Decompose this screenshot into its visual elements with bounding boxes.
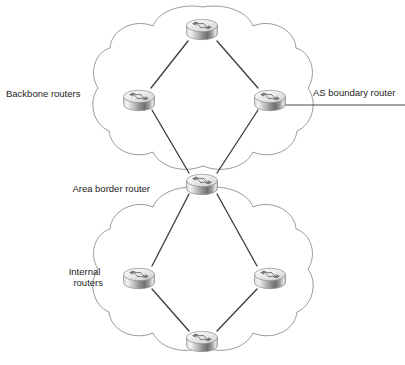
backbone-left-router[interactable] (124, 90, 155, 110)
area-border-router-label: Area border router (72, 183, 150, 194)
area-border-router[interactable] (187, 174, 218, 194)
internal-routers-label-line-2: routers (73, 277, 103, 288)
as-boundary-router[interactable] (255, 90, 286, 110)
network-topology-diagram: Backbone routers AS boundary router Area… (0, 0, 405, 365)
internal-left-router[interactable] (124, 268, 155, 288)
as-boundary-router-label: AS boundary router (313, 87, 395, 98)
internal-bottom-router[interactable] (187, 331, 218, 351)
backbone-routers-label: Backbone routers (6, 88, 81, 99)
internal-area-cloud (93, 187, 313, 350)
backbone-top-router[interactable] (187, 19, 218, 39)
diagram-canvas: Backbone routers AS boundary router Area… (0, 0, 405, 365)
internal-routers-label: Internal routers (69, 266, 104, 288)
internal-routers-label-line-1: Internal (69, 266, 101, 277)
internal-right-router[interactable] (255, 268, 286, 288)
